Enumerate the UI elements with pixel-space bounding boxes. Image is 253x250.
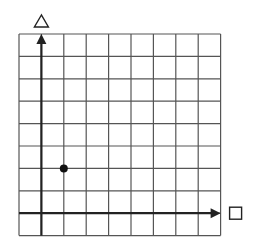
y-axis-arrow-icon (36, 34, 46, 44)
grid-lines (19, 34, 221, 236)
y-axis-triangle-label-icon (34, 15, 48, 27)
x-axis-square-label-icon (230, 207, 242, 219)
x-axis-arrow-icon (211, 208, 221, 218)
plotted-points (60, 164, 68, 172)
data-point (60, 164, 68, 172)
axis-labels (34, 15, 241, 219)
axes (19, 34, 221, 236)
coordinate-grid-diagram (0, 0, 253, 250)
